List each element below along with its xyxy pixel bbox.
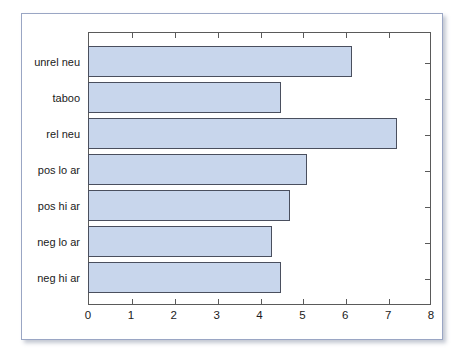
y-axis-tick-label: pos lo ar <box>38 164 80 175</box>
figure-frame: neg hi arneg lo arpos hi arpos lo arrel … <box>21 13 443 340</box>
bar-rect <box>88 190 290 221</box>
x-axis-tick-label: 4 <box>256 310 262 322</box>
x-axis-tick-label: 2 <box>171 310 177 322</box>
x-axis-tick-label: 3 <box>213 310 219 322</box>
x-axis-tick-label: 6 <box>342 310 348 322</box>
bar-pos-hi-ar: pos hi ar <box>88 190 290 221</box>
y-axis-tick-label: taboo <box>52 92 80 103</box>
bar-series: neg hi arneg lo arpos hi arpos lo arrel … <box>88 32 431 305</box>
bar-unrel-neu: unrel neu <box>88 46 352 77</box>
x-axis-tick-label: 0 <box>85 310 91 322</box>
y-axis-tick-label: unrel neu <box>34 56 80 67</box>
x-axis-tick-label: 7 <box>385 310 391 322</box>
x-axis-tick-label: 5 <box>299 310 305 322</box>
bar-rect <box>88 226 272 257</box>
bar-taboo: taboo <box>88 82 281 113</box>
bar-rect <box>88 118 397 149</box>
bar-rect <box>88 262 281 293</box>
plot-area: neg hi arneg lo arpos hi arpos lo arrel … <box>88 32 431 305</box>
y-axis-tick-label: rel neu <box>46 128 80 139</box>
bar-rect <box>88 46 352 77</box>
bar-neg-lo-ar: neg lo ar <box>88 226 272 257</box>
y-axis-tick-label: neg hi ar <box>37 272 80 283</box>
bar-pos-lo-ar: pos lo ar <box>88 154 307 185</box>
bar-rect <box>88 154 307 185</box>
bar-neg-hi-ar: neg hi ar <box>88 262 281 293</box>
x-axis-tick-label: 1 <box>128 310 134 322</box>
y-axis-tick-label: neg lo ar <box>37 236 80 247</box>
y-axis-tick-label: pos hi ar <box>38 200 80 211</box>
x-axis-tick-label: 8 <box>428 310 434 322</box>
bar-rect <box>88 82 281 113</box>
bar-rel-neu: rel neu <box>88 118 397 149</box>
